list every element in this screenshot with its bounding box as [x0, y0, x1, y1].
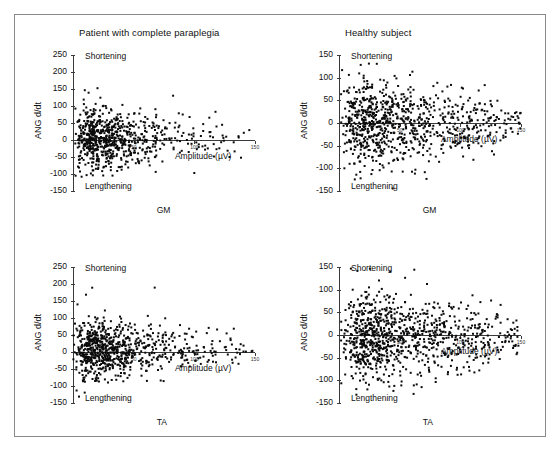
- annotation-lengthening: Lengthening: [85, 393, 132, 403]
- y-axis-label: ANG d/dt: [33, 102, 43, 139]
- y-tick-label: -100: [39, 380, 67, 390]
- x-axis-label: Amplitude (µV): [175, 151, 231, 161]
- y-tick-label: -150: [39, 397, 67, 407]
- y-tick-label: 200: [39, 278, 67, 288]
- annotation-lengthening: Lengthening: [85, 181, 132, 191]
- panel-patient-gm: Patient with complete paraplegia25020015…: [15, 15, 281, 227]
- y-tick: [71, 191, 75, 192]
- muscle-label: GM: [157, 205, 171, 215]
- annotation-lengthening: Lengthening: [351, 181, 398, 191]
- y-tick-label: -100: [39, 168, 67, 178]
- y-tick: [337, 191, 341, 192]
- scatter-points-healthy-ta: [339, 267, 521, 403]
- y-tick-label: -100: [305, 374, 333, 384]
- y-tick: [71, 403, 75, 404]
- annotation-shortening: Shortening: [351, 51, 392, 61]
- y-tick: [337, 403, 341, 404]
- muscle-label: TA: [157, 417, 167, 427]
- y-tick-label: 0: [39, 346, 67, 356]
- y-axis-label: ANG d/dt: [299, 314, 309, 351]
- y-tick-label: -50: [305, 140, 333, 150]
- y-tick-label: 250: [39, 49, 67, 59]
- y-tick-label: -150: [305, 397, 333, 407]
- panel-patient-ta: 250200150100500-50-100-15050100150Shorte…: [15, 227, 281, 438]
- plot-area-healthy-gm: 150100500-50-100-15050100150ShorteningLe…: [339, 55, 521, 191]
- y-tick-label: -50: [305, 352, 333, 362]
- annotation-lengthening: Lengthening: [351, 393, 398, 403]
- figure-frame: Patient with complete paraplegia25020015…: [14, 14, 546, 437]
- y-tick-label: 100: [305, 72, 333, 82]
- y-tick-label: 150: [305, 49, 333, 59]
- y-axis-label: ANG d/dt: [299, 102, 309, 139]
- y-tick-label: -100: [305, 162, 333, 172]
- x-axis-label: Amplitude (µV): [441, 346, 497, 356]
- y-tick-label: 0: [305, 117, 333, 127]
- annotation-shortening: Shortening: [351, 263, 392, 273]
- scatter-points-patient-gm: [73, 55, 255, 191]
- y-tick-label: 50: [39, 329, 67, 339]
- y-tick-label: 50: [39, 117, 67, 127]
- panel-healthy-gm: Healthy subject150100500-50-100-15050100…: [281, 15, 547, 227]
- scatter-points-patient-ta: [73, 267, 255, 403]
- y-tick-label: 50: [305, 306, 333, 316]
- panel-title: Healthy subject: [345, 27, 411, 38]
- muscle-label: TA: [423, 417, 433, 427]
- panel-title: Patient with complete paraplegia: [79, 27, 220, 38]
- y-tick-label: 150: [305, 261, 333, 271]
- scatter-points-healthy-gm: [339, 55, 521, 191]
- panel-healthy-ta: 150100500-50-100-15050100150ShorteningLe…: [281, 227, 547, 438]
- y-tick-label: 150: [39, 83, 67, 93]
- y-tick-label: 0: [39, 134, 67, 144]
- y-tick-label: -50: [39, 151, 67, 161]
- y-tick-label: 100: [39, 312, 67, 322]
- y-axis-label: ANG d/dt: [33, 314, 43, 351]
- x-axis-label: Amplitude (µV): [441, 134, 497, 144]
- y-tick-label: 200: [39, 66, 67, 76]
- x-axis-label: Amplitude (µV): [175, 363, 231, 373]
- annotation-shortening: Shortening: [85, 51, 126, 61]
- y-tick-label: 150: [39, 295, 67, 305]
- plot-area-patient-gm: 250200150100500-50-100-15050100150Shorte…: [73, 55, 255, 191]
- y-tick-label: 250: [39, 261, 67, 271]
- plot-area-healthy-ta: 150100500-50-100-15050100150ShorteningLe…: [339, 267, 521, 403]
- y-tick-label: 100: [305, 284, 333, 294]
- y-tick-label: 0: [305, 329, 333, 339]
- plot-area-patient-ta: 250200150100500-50-100-15050100150Shorte…: [73, 267, 255, 403]
- y-tick-label: -150: [39, 185, 67, 195]
- y-tick-label: -150: [305, 185, 333, 195]
- y-tick-label: -50: [39, 363, 67, 373]
- annotation-shortening: Shortening: [85, 263, 126, 273]
- y-tick-label: 100: [39, 100, 67, 110]
- muscle-label: GM: [423, 205, 437, 215]
- y-tick-label: 50: [305, 94, 333, 104]
